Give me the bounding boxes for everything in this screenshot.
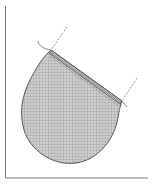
- dashed-extension-left: [51, 27, 67, 50]
- pattern-diagram: [0, 0, 153, 186]
- corner-tick-right: [122, 101, 127, 107]
- diagram-canvas: [0, 0, 153, 186]
- dashed-extension-right: [122, 78, 137, 101]
- thread-curve: [38, 41, 51, 50]
